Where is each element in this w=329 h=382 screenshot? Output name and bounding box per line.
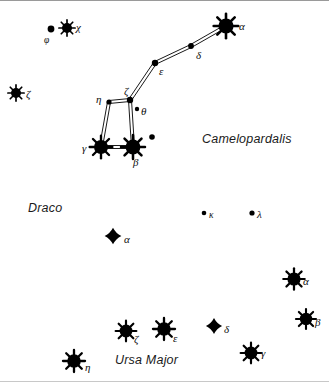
constellation-line: [154, 45, 191, 65]
star-marker: [249, 210, 254, 215]
star-label: γ: [261, 347, 265, 359]
star-marker: [202, 211, 207, 216]
star-marker: [106, 99, 111, 104]
star-chart-svg: [0, 1, 329, 382]
star-marker: [188, 43, 194, 49]
star-label: η: [96, 93, 101, 105]
star-marker: [206, 318, 222, 334]
star-label: ζ: [124, 85, 128, 97]
star-marker: [241, 343, 262, 364]
star-marker: [59, 20, 75, 36]
star-marker: [153, 318, 175, 340]
constellation-name-label: Camelopardalis: [202, 132, 292, 146]
constellation-name-label: Ursa Major: [115, 353, 178, 367]
constellation-lines-layer: [100, 25, 227, 149]
star-chart-canvas: φχζαδεζηθγβκλααβζεδγη CamelopardalisDrac…: [0, 0, 329, 382]
star-marker: [63, 350, 85, 372]
star-label: φ: [44, 35, 49, 45]
star-label: θ: [141, 105, 146, 117]
star-marker: [296, 309, 316, 329]
star-marker: [149, 134, 155, 140]
star-marker: [105, 228, 122, 245]
star-label: γ: [82, 142, 86, 154]
star-label: α: [303, 275, 309, 287]
star-marker: [90, 136, 113, 159]
star-label: α: [124, 233, 130, 245]
star-label: ζ: [134, 333, 138, 345]
star-label: β: [315, 316, 320, 328]
star-label: δ: [224, 323, 229, 335]
star-label: β: [133, 156, 138, 168]
star-marker: [48, 26, 55, 33]
star-label: δ: [196, 49, 201, 61]
constellation-line: [129, 62, 156, 101]
star-marker: [8, 85, 24, 101]
star-label: ε: [173, 332, 177, 344]
star-marker: [283, 268, 304, 289]
star-label: χ: [76, 21, 81, 33]
star-label: ζ: [26, 88, 30, 100]
star-marker: [214, 14, 239, 39]
star-label: λ: [257, 208, 262, 220]
star-marker: [127, 97, 133, 103]
star-label: η: [85, 361, 90, 373]
star-label: ε: [159, 65, 163, 77]
constellation-name-label: Draco: [28, 201, 62, 215]
star-marker: [135, 107, 139, 111]
star-label: α: [239, 20, 245, 32]
star-label: κ: [209, 210, 214, 220]
star-marker: [152, 60, 158, 66]
